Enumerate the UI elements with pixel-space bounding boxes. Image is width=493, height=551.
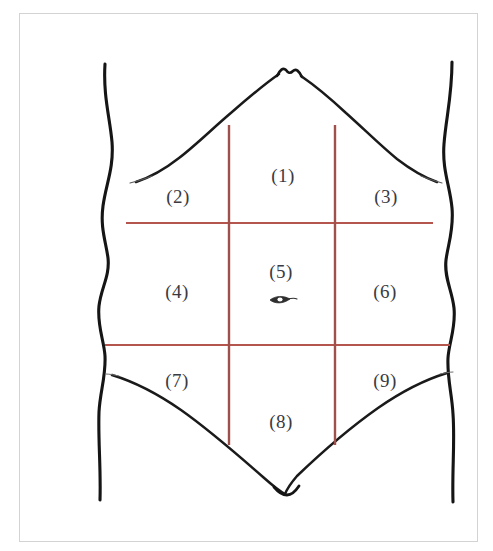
region-label-6: (6) [373, 282, 397, 301]
region-label-2: (2) [166, 187, 190, 206]
region-label-3: (3) [374, 187, 398, 206]
right-costal-margin [301, 76, 437, 182]
region-label-7: (7) [165, 371, 189, 390]
right-inguinal-fold [285, 373, 447, 494]
right-costal-margin-taper [421, 176, 442, 183]
torso-outline-group [99, 62, 455, 502]
left-costal-margin-taper [130, 176, 152, 183]
region-label-8: (8) [269, 412, 293, 431]
diagram-page: (1) (2) (3) (4) (5) (6) (7) (8) (9) [0, 0, 493, 551]
left-costal-margin [136, 74, 279, 182]
xiphoid-notch [277, 69, 302, 77]
left-inguinal-fold [112, 375, 285, 494]
region-label-9: (9) [373, 371, 397, 390]
navel-icon [270, 296, 297, 302]
left-body-contour [99, 64, 113, 500]
right-body-contour [444, 62, 455, 502]
region-label-4: (4) [165, 282, 189, 301]
region-label-1: (1) [271, 166, 295, 185]
region-label-5: (5) [269, 262, 293, 281]
torso-figure [0, 0, 493, 551]
